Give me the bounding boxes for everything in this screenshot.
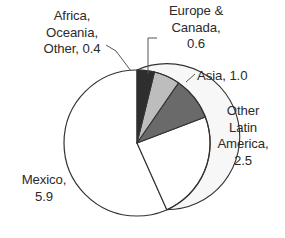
pie-label-europe-canada: Europe & Canada, 0.6 bbox=[148, 3, 244, 53]
pie-label-mexico: Mexico, 5.9 bbox=[4, 172, 84, 205]
pie-label-asia: Asia, 1.0 bbox=[197, 68, 279, 85]
pie-chart: Africa, Oceania, Other, 0.4 Europe & Can… bbox=[0, 0, 285, 238]
pie-label-other-latin-america: Other Latin America, 2.5 bbox=[205, 103, 281, 169]
pie-label-africa-oceania-other: Africa, Oceania, Other, 0.4 bbox=[14, 8, 130, 58]
